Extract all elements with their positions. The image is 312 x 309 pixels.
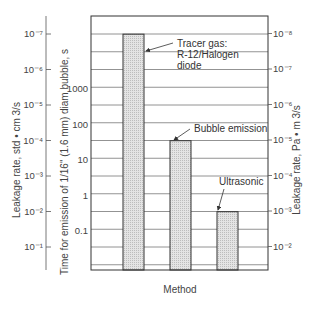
annotation-line: Ultrasonic <box>219 176 263 187</box>
right-tick-label: 10⁻⁸ <box>273 28 293 39</box>
time-tick-label: 10 <box>77 154 88 165</box>
right-leakage-axis: 10⁻⁸10⁻⁷10⁻⁶10⁻⁵10⁻⁴10⁻³10⁻² <box>268 28 293 252</box>
left-tick-label: 10⁻¹ <box>24 241 43 252</box>
chart: 10⁻⁷10⁻⁶10⁻⁵10⁻⁴10⁻³10⁻²10⁻¹ 10001001010… <box>0 0 312 309</box>
right-tick-label: 10⁻⁶ <box>273 99 293 110</box>
time-axis: 10001001010.1 <box>67 83 88 236</box>
time-tick-label: 0.1 <box>75 225 88 236</box>
left-axis-title: Leakage rate, std • cm 3/s <box>11 102 22 218</box>
annotation-label-2: Ultrasonic <box>219 176 263 187</box>
annotation-label-1: Bubble emission <box>194 123 267 134</box>
bar-2 <box>217 212 238 270</box>
annotation-line: Bubble emission <box>194 123 267 134</box>
annotation-line: Tracer gas: <box>177 38 227 49</box>
left-tick-label: 10⁻² <box>24 206 43 217</box>
left-tick-label: 10⁻⁵ <box>23 99 43 110</box>
annotation-arrow-2 <box>218 189 224 210</box>
annotation-arrow-1 <box>174 129 190 140</box>
time-tick-label: 1 <box>83 190 88 201</box>
x-axis-title: Method <box>163 284 196 295</box>
time-tick-label: 100 <box>72 119 88 130</box>
right-tick-label: 10⁻⁷ <box>273 63 293 74</box>
bar-1 <box>170 141 191 270</box>
left-tick-label: 10⁻⁴ <box>23 135 43 146</box>
annotation-label-0: Tracer gas:R-12/Halogendiode <box>177 38 239 71</box>
right-tick-label: 10⁻³ <box>273 205 292 216</box>
left-tick-label: 10⁻⁷ <box>24 28 44 39</box>
right-tick-label: 10⁻⁴ <box>273 170 293 181</box>
annotation-line: diode <box>177 60 202 71</box>
time-axis-title: Time for emission of 1/16" (1.6 mm) diam… <box>59 49 70 275</box>
annotations: Tracer gas:R-12/HalogendiodeBubble emiss… <box>146 38 267 210</box>
left-tick-label: 10⁻³ <box>24 170 43 181</box>
right-tick-label: 10⁻⁵ <box>273 134 293 145</box>
left-tick-label: 10⁻⁶ <box>24 64 44 75</box>
time-tick-label: 1000 <box>67 83 88 94</box>
right-axis-title: Leakage rate, Pa • m 3/s <box>291 105 302 215</box>
annotation-line: R-12/Halogen <box>177 49 239 60</box>
right-tick-label: 10⁻² <box>273 241 292 252</box>
annotation-arrow-0 <box>146 43 173 51</box>
bar-0 <box>123 34 144 270</box>
left-leakage-axis: 10⁻⁷10⁻⁶10⁻⁵10⁻⁴10⁻³10⁻²10⁻¹ <box>23 16 51 270</box>
